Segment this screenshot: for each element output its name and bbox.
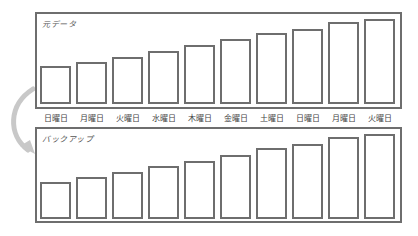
original-data-bar <box>292 29 323 104</box>
day-label: 火曜日 <box>110 112 146 123</box>
backup-data-bar <box>364 134 395 219</box>
original-data-bar <box>112 57 143 104</box>
original-data-bar <box>220 39 251 104</box>
original-data-bar <box>328 22 359 104</box>
panel-title: 元データ <box>42 18 76 29</box>
day-label: 日曜日 <box>38 112 74 123</box>
backup-data-bar <box>112 172 143 219</box>
day-label: 金曜日 <box>218 112 254 123</box>
backup-data-bar <box>220 155 251 219</box>
original-data-bar <box>148 51 179 104</box>
original-data-bar <box>76 62 107 104</box>
day-label: 日曜日 <box>290 112 326 123</box>
backup-data-bar <box>256 148 287 219</box>
backup-data-bar <box>184 161 215 219</box>
original-data-bar <box>40 66 71 104</box>
day-label: 月曜日 <box>326 112 362 123</box>
original-data-bar <box>184 45 215 104</box>
day-label: 土曜日 <box>254 112 290 123</box>
day-label: 火曜日 <box>362 112 398 123</box>
day-label: 木曜日 <box>182 112 218 123</box>
original-data-bar <box>256 33 287 104</box>
backup-data-bar <box>148 166 179 219</box>
original-data-bar <box>364 19 395 104</box>
panel-title: バックアップ <box>42 133 93 144</box>
day-label: 月曜日 <box>74 112 110 123</box>
backup-data-bar <box>40 182 71 219</box>
day-label: 水曜日 <box>146 112 182 123</box>
backup-data-bar <box>328 137 359 219</box>
backup-data-bar <box>292 144 323 219</box>
backup-data-bar <box>76 177 107 219</box>
